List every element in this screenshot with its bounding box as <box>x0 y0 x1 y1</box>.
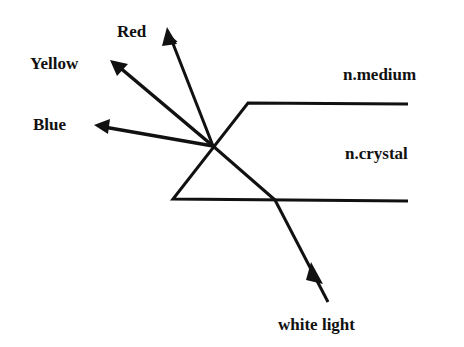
dispersion-diagram: Red Yellow Blue n.medium n.crystal white… <box>0 0 464 347</box>
label-red: Red <box>117 22 147 41</box>
red-arrowhead-icon <box>162 27 177 46</box>
label-medium: n.medium <box>343 65 416 84</box>
label-white-light: white light <box>278 315 355 334</box>
blue-ray <box>104 127 213 146</box>
label-yellow: Yellow <box>30 54 79 73</box>
label-blue: Blue <box>33 115 67 134</box>
blue-arrowhead-icon <box>94 119 110 134</box>
label-crystal: n.crystal <box>345 144 408 163</box>
